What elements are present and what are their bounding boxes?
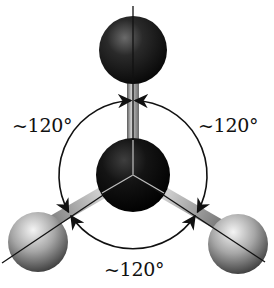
arc-bottom (71, 216, 195, 249)
molecule-diagram (0, 0, 274, 288)
angle-label-right: ~120° (198, 116, 258, 135)
atom-bottom-left (8, 212, 68, 272)
angle-label-left: ~120° (12, 116, 72, 135)
angle-label-bottom: ~120° (104, 260, 164, 279)
